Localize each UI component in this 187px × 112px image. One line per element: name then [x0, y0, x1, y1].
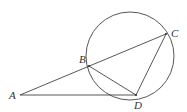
chord-BD — [89, 66, 136, 95]
chord-CD — [136, 34, 166, 95]
label-D: D — [133, 99, 142, 111]
secant-AC — [20, 34, 166, 95]
geometry-diagram: A B C D — [0, 0, 187, 112]
label-B: B — [79, 53, 86, 65]
circle — [86, 12, 174, 100]
point-B — [88, 65, 90, 67]
label-A: A — [8, 89, 16, 101]
point-C — [165, 33, 167, 35]
label-C: C — [171, 27, 179, 39]
point-D — [135, 94, 137, 96]
